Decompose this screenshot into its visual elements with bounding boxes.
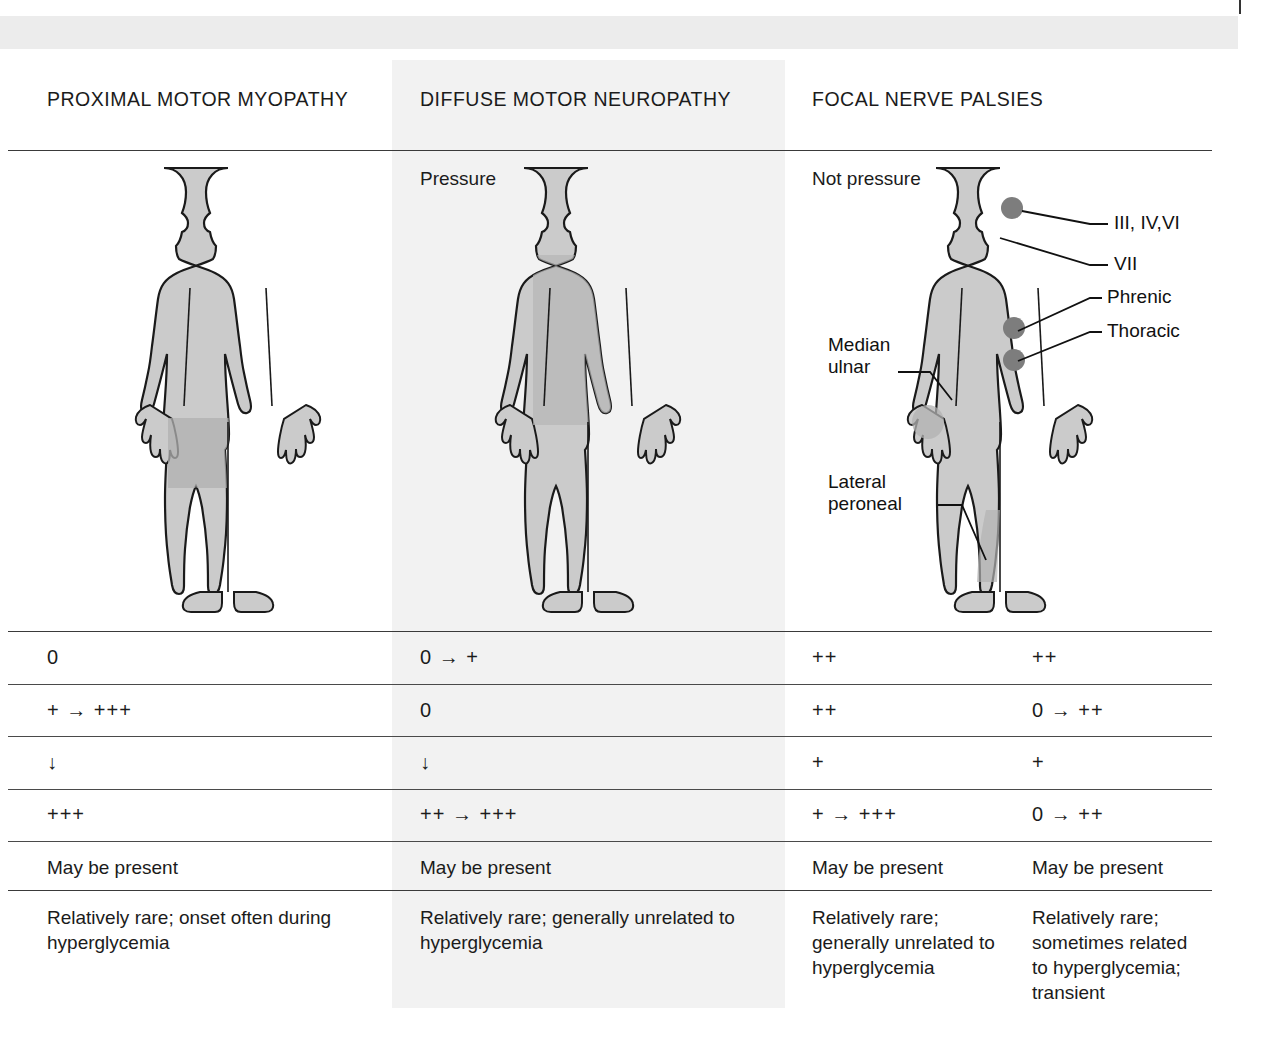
table-cell-r5c4: May be present xyxy=(1032,855,1207,880)
body-figure-proximal-motor-myopathy xyxy=(128,160,328,624)
rule-row-6-top xyxy=(8,890,1212,891)
annotation-label-median-ulnar: Median ulnar xyxy=(828,334,938,378)
nerve-dot-phrenic xyxy=(1003,317,1025,339)
page-edge-mark xyxy=(1239,0,1241,14)
table-cell-r4c4: 0 → ++ xyxy=(1032,802,1207,827)
table-cell-r5c1: May be present xyxy=(47,855,377,880)
table-cell-r4c1: +++ xyxy=(47,802,377,827)
nerve-dot-cranial xyxy=(1001,197,1023,219)
annotation-label-phrenic-nerve: Phrenic xyxy=(1107,286,1171,308)
column-header-proximal-motor-myopathy: PROXIMAL MOTOR MYOPATHY xyxy=(47,88,348,111)
human-body-silhouette-svg xyxy=(128,160,328,620)
table-cell-r2c1: + → +++ xyxy=(47,698,377,723)
table-cell-r1c1: 0 xyxy=(47,645,377,670)
table-cell-r3c1: ↓ xyxy=(47,750,377,775)
annotation-label-lateral-peroneal: Lateral peroneal xyxy=(828,471,938,515)
table-cell-r6c1: Relatively rare; onset often during hype… xyxy=(47,905,377,955)
rule-row-3-top xyxy=(8,736,1212,737)
table-cell-r6c3: Relatively rare; generally unrelated to … xyxy=(812,905,1012,980)
body-figure-diffuse-motor-neuropathy xyxy=(488,160,688,624)
annotation-label-lateral-peroneal-line1: Lateral xyxy=(828,471,938,493)
page-root: PROXIMAL MOTOR MYOPATHY DIFFUSE MOTOR NE… xyxy=(0,0,1273,1053)
column-header-focal-nerve-palsies: FOCAL NERVE PALSIES xyxy=(812,88,1043,111)
body-figure-focal-nerve-palsies xyxy=(900,160,1100,624)
annotation-label-cranial-nerves: III, IV,VI xyxy=(1114,212,1180,234)
rule-row-5-top xyxy=(8,841,1212,842)
table-cell-r3c2: ↓ xyxy=(420,750,790,775)
table-cell-r6c2: Relatively rare; generally unrelated to … xyxy=(420,905,790,955)
rule-header xyxy=(8,150,1212,151)
human-body-silhouette-svg xyxy=(900,160,1100,620)
rule-row-1-top xyxy=(8,631,1212,632)
table-cell-r4c2: ++ → +++ xyxy=(420,802,790,827)
column-header-diffuse-motor-neuropathy: DIFFUSE MOTOR NEUROPATHY xyxy=(420,88,731,111)
annotation-label-median-ulnar-line2: ulnar xyxy=(828,356,938,378)
table-cell-r5c2: May be present xyxy=(420,855,790,880)
table-cell-r6c4: Relatively rare; sometimes related to hy… xyxy=(1032,905,1207,1005)
annotation-label-facial-nerve: VII xyxy=(1114,253,1137,275)
table-cell-r3c4: + xyxy=(1032,750,1207,775)
annotation-label-median-ulnar-line1: Median xyxy=(828,334,938,356)
table-cell-r2c3: ++ xyxy=(812,698,1012,723)
scan-header-bar xyxy=(0,16,1238,49)
table-cell-r1c4: ++ xyxy=(1032,645,1207,670)
table-cell-r4c3: + → +++ xyxy=(812,802,1012,827)
human-body-silhouette-svg xyxy=(488,160,688,620)
table-cell-r2c2: 0 xyxy=(420,698,790,723)
table-cell-r1c3: ++ xyxy=(812,645,1012,670)
table-cell-r2c4: 0 → ++ xyxy=(1032,698,1207,723)
rule-row-4-top xyxy=(8,789,1212,790)
rule-row-2-top xyxy=(8,684,1212,685)
table-cell-r3c3: + xyxy=(812,750,1012,775)
annotation-label-lateral-peroneal-line2: peroneal xyxy=(828,493,938,515)
nerve-dot-thoracic xyxy=(1003,349,1025,371)
table-cell-r5c3: May be present xyxy=(812,855,1012,880)
table-cell-r1c2: 0 → + xyxy=(420,645,790,670)
annotation-label-thoracic-nerve: Thoracic xyxy=(1107,320,1180,342)
caption-pressure: Pressure xyxy=(420,168,496,190)
